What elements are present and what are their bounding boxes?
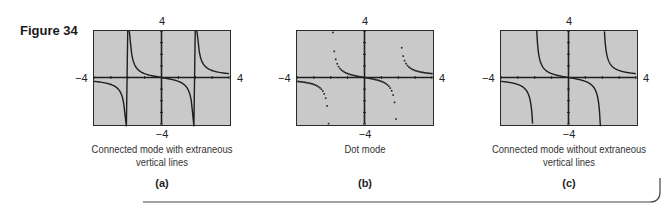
figure-bracket [0,0,670,215]
